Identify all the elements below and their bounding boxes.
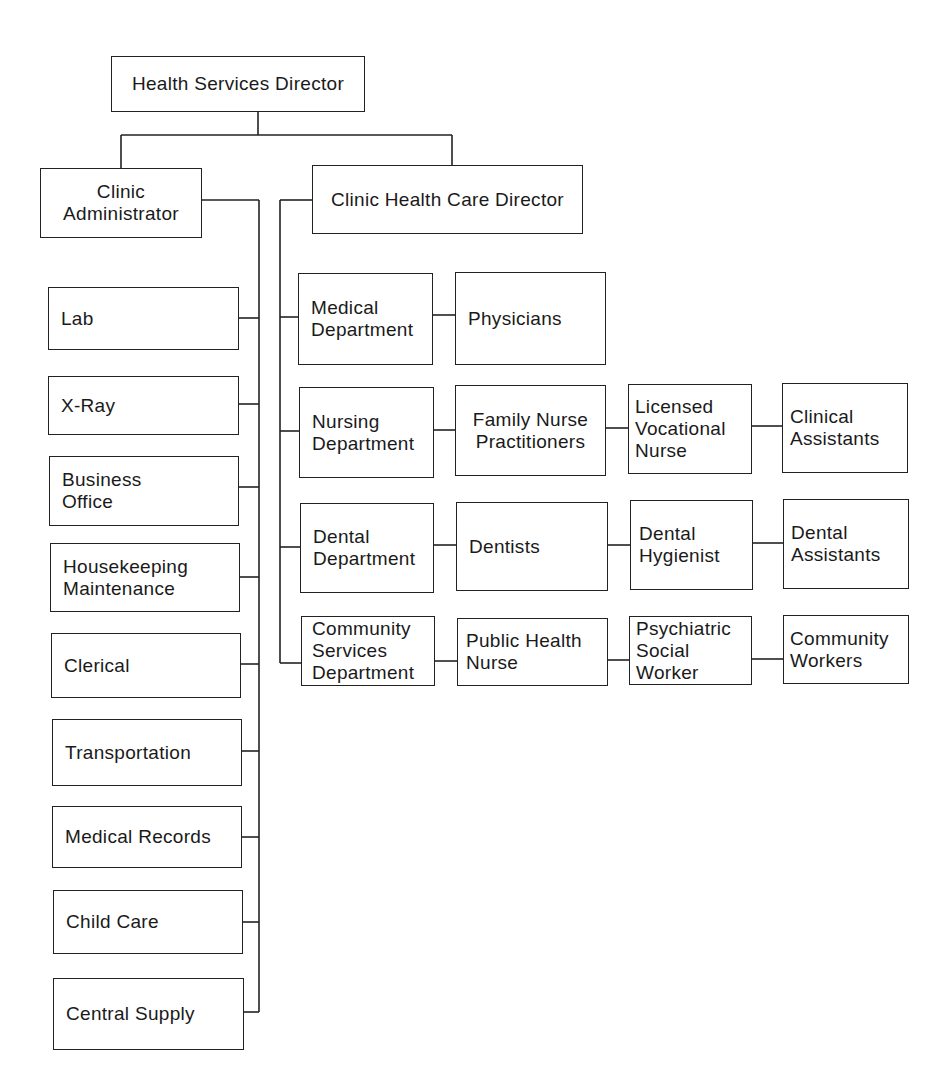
- unit-xray-box: X-Ray: [48, 376, 239, 435]
- box-label: Clinical Assistants: [790, 406, 880, 450]
- box-label: Dental Department: [313, 526, 415, 570]
- clinic-administrator-box: Clinic Administrator: [40, 168, 202, 238]
- box-label: Physicians: [468, 308, 562, 330]
- dental-hygienist-box: Dental Hygienist: [630, 500, 753, 590]
- dentists-box: Dentists: [456, 502, 608, 591]
- community-workers-box: Community Workers: [783, 615, 909, 684]
- box-label: Central Supply: [66, 1003, 195, 1025]
- unit-transportation-box: Transportation: [52, 719, 242, 786]
- health-services-director-box: Health Services Director: [111, 56, 365, 112]
- unit-child-care-box: Child Care: [53, 890, 243, 954]
- box-label: Transportation: [65, 742, 191, 764]
- box-label: Psychiatric Social Worker: [636, 618, 731, 684]
- box-label: Dental Hygienist: [639, 523, 720, 567]
- clinical-assistants-box: Clinical Assistants: [782, 383, 908, 473]
- box-label: Clinic Health Care Director: [331, 189, 564, 211]
- box-label: Medical Department: [311, 297, 413, 341]
- unit-clerical-box: Clerical: [51, 633, 241, 698]
- dental-assistants-box: Dental Assistants: [783, 499, 909, 589]
- unit-lab-box: Lab: [48, 287, 239, 350]
- unit-medical-records-box: Medical Records: [52, 806, 242, 868]
- unit-central-supply-box: Central Supply: [53, 978, 244, 1050]
- unit-housekeeping-maintenance-box: Housekeeping Maintenance: [50, 543, 240, 612]
- box-label: Licensed Vocational Nurse: [635, 396, 726, 462]
- box-label: Clerical: [64, 655, 130, 677]
- dept-nursing-box: Nursing Department: [299, 387, 434, 478]
- box-label: Housekeeping Maintenance: [63, 556, 188, 600]
- box-label: Family Nurse Practitioners: [473, 409, 589, 453]
- dept-medical-box: Medical Department: [298, 273, 433, 365]
- box-label: X-Ray: [61, 395, 115, 417]
- physicians-box: Physicians: [455, 272, 606, 365]
- box-label: Public Health Nurse: [466, 630, 582, 674]
- dept-community-services-box: Community Services Department: [301, 616, 435, 686]
- box-label: Lab: [61, 308, 94, 330]
- box-label: Health Services Director: [132, 73, 344, 95]
- clinic-health-care-director-box: Clinic Health Care Director: [312, 165, 583, 234]
- psychiatric-social-worker-box: Psychiatric Social Worker: [629, 616, 752, 685]
- box-label: Community Workers: [790, 628, 889, 672]
- public-health-nurse-box: Public Health Nurse: [457, 618, 608, 686]
- family-nurse-practitioners-box: Family Nurse Practitioners: [455, 385, 606, 476]
- dept-dental-box: Dental Department: [300, 503, 434, 593]
- box-label: Dentists: [469, 536, 540, 558]
- box-label: Community Services Department: [312, 618, 414, 684]
- box-label: Child Care: [66, 911, 159, 933]
- unit-business-office-box: Business Office: [49, 456, 239, 526]
- licensed-vocational-nurse-box: Licensed Vocational Nurse: [628, 384, 752, 474]
- box-label: Business Office: [62, 469, 142, 513]
- box-label: Dental Assistants: [791, 522, 881, 566]
- box-label: Nursing Department: [312, 411, 414, 455]
- box-label: Medical Records: [65, 826, 211, 848]
- box-label: Clinic Administrator: [63, 181, 179, 225]
